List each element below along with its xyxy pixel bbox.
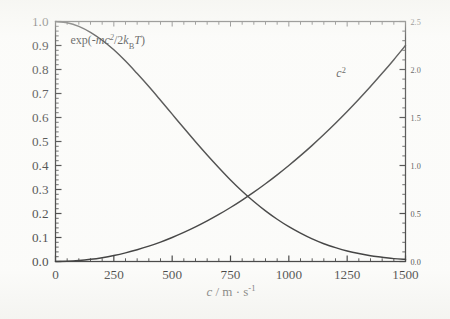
y-left-tick-label: 0.5 (32, 134, 49, 149)
x-tick-label: 1500 (392, 267, 419, 282)
y-left-tick-label: 0.7 (32, 86, 49, 101)
x-tick-label: 500 (162, 267, 182, 282)
figure-page: 0250500750100012501500 0.00.10.20.30.40.… (0, 0, 450, 319)
x-axis-title: c / m · s-1 (206, 283, 255, 299)
y-left-tick-label: 0.8 (32, 62, 49, 77)
y-left-tick-label: 0.2 (32, 206, 48, 221)
y-axis-right-major-ticks (400, 22, 406, 262)
x-axis-top-minor-ticks (56, 22, 406, 27)
x-tick-label: 1000 (276, 267, 303, 282)
x-tick-label: 750 (221, 267, 241, 282)
y-axis-left-major-ticks (56, 22, 62, 262)
scientific-plot: 0250500750100012501500 0.00.10.20.30.40.… (0, 0, 450, 319)
y-left-tick-label: 0.4 (32, 158, 49, 173)
y-left-tick-label: 0.1 (32, 230, 48, 245)
x-tick-label: 1250 (334, 267, 361, 282)
y-right-tick-label: 0.0 (411, 258, 421, 267)
y-right-tick-label: 2.0 (411, 66, 421, 75)
plot-frame (56, 22, 406, 262)
y-left-tick-label: 0.9 (32, 38, 49, 53)
y-left-tick-label: 0.0 (32, 254, 49, 269)
y-left-tick-label: 1.0 (32, 14, 49, 29)
c-squared-label: c2 (336, 66, 346, 81)
x-tick-label: 250 (104, 267, 124, 282)
x-axis-tick-labels: 0250500750100012501500 (52, 267, 419, 282)
y-left-tick-label: 0.6 (32, 110, 49, 125)
y-axis-left-tick-labels: 0.00.10.20.30.40.50.60.70.80.91.0 (32, 14, 49, 269)
boltzmann-factor-label: exp(-mc2/2kBT) (71, 32, 145, 50)
y-right-tick-label: 1.0 (411, 162, 421, 171)
y-right-tick-label: 2.5 (411, 18, 421, 27)
curve-boltzmann-factor (56, 22, 406, 260)
curve-c-squared (56, 46, 406, 262)
y-right-tick-label: 1.5 (411, 114, 421, 123)
y-axis-right-tick-labels: 0.00.51.01.52.02.5 (411, 18, 421, 267)
y-left-tick-label: 0.3 (32, 182, 49, 197)
y-right-tick-label: 0.5 (411, 210, 421, 219)
x-tick-label: 0 (52, 267, 59, 282)
